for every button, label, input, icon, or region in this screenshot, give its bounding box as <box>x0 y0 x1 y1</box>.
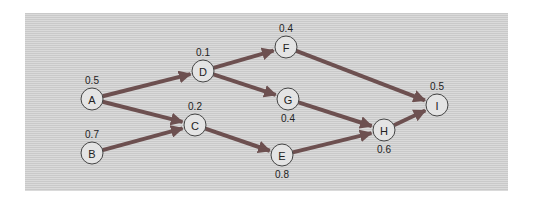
edge-e-h-arrow-icon <box>293 133 372 152</box>
node-label: E <box>278 150 285 162</box>
node-b: B0.7 <box>81 129 103 165</box>
edge-c-e-arrow-icon <box>205 129 269 151</box>
node-label: D <box>199 66 207 78</box>
network-diagram: A0.5B0.7C0.2D0.1E0.8F0.4G0.4H0.6I0.5 <box>0 0 534 202</box>
edge-d-f-arrow-icon <box>214 51 274 68</box>
node-label: I <box>435 100 438 112</box>
node-i: I0.5 <box>426 81 448 117</box>
node-value: 0.7 <box>85 129 99 140</box>
edge-a-d-arrow-icon <box>103 74 191 96</box>
node-d: D0.1 <box>192 47 214 83</box>
node-c: C0.2 <box>184 101 206 137</box>
node-value: 0.4 <box>279 23 293 34</box>
node-label: G <box>284 94 293 106</box>
node-label: F <box>283 42 290 54</box>
node-value: 0.1 <box>196 47 210 58</box>
node-value: 0.4 <box>281 113 295 124</box>
node-value: 0.8 <box>275 169 289 180</box>
edge-a-c-arrow-icon <box>103 102 183 122</box>
edge-d-g-arrow-icon <box>213 74 275 94</box>
node-a: A0.5 <box>81 75 103 111</box>
edge-b-c-arrow-icon <box>103 128 183 150</box>
node-f: F0.4 <box>275 23 297 59</box>
edge-f-i-arrow-icon <box>296 51 425 100</box>
node-label: A <box>88 94 96 106</box>
node-label: B <box>88 148 95 160</box>
edge-g-h-arrow-icon <box>298 102 371 126</box>
node-value: 0.5 <box>430 81 444 92</box>
node-e: E0.8 <box>271 144 293 180</box>
node-value: 0.6 <box>377 144 391 155</box>
node-label: H <box>380 125 388 137</box>
node-h: H0.6 <box>373 119 395 155</box>
node-value: 0.2 <box>188 101 202 112</box>
edge-h-i-arrow-icon <box>394 111 425 126</box>
node-g: G0.4 <box>277 88 299 124</box>
node-value: 0.5 <box>85 75 99 86</box>
node-label: C <box>191 120 199 132</box>
